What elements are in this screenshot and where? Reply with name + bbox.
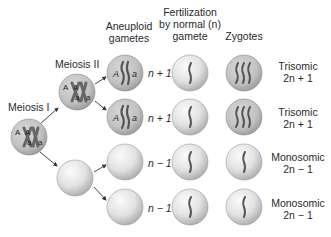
svg-text:A: A (15, 128, 21, 137)
arrow-empty-to-gamete3 (94, 165, 106, 172)
normal-gamete-cell-4 (172, 189, 208, 225)
zygote-cell-3 (226, 144, 262, 180)
meiosis-2-cell: A A a a (59, 74, 95, 110)
svg-text:A: A (25, 128, 31, 137)
chromosome-icon (236, 63, 238, 83)
arrow-m2-to-gamete1 (95, 77, 106, 84)
gamete-cell-4 (107, 189, 143, 225)
svg-text:A: A (112, 113, 119, 123)
zygote-cell-2 (226, 99, 262, 135)
normal-gamete-cell-2 (172, 99, 208, 135)
svg-text:A: A (63, 83, 69, 92)
normal-gamete-cell-1 (172, 55, 208, 91)
svg-text:a: a (132, 113, 137, 123)
gamete-cell-2: A a (107, 99, 143, 135)
chromosome-icon (236, 107, 238, 127)
arrow-empty-to-gamete4 (94, 187, 106, 200)
gamete-cell-1: A a (107, 55, 143, 91)
arrow-m1-to-m2 (40, 108, 58, 124)
gamete-cell-3 (107, 144, 143, 180)
svg-text:a: a (27, 138, 32, 147)
svg-text:a: a (132, 69, 137, 79)
svg-text:A: A (73, 83, 79, 92)
zygote-cell-1 (226, 55, 262, 91)
arrow-m2-to-gamete2 (95, 101, 106, 110)
normal-gamete-cell-3 (172, 144, 208, 180)
zygote-cell-4 (226, 189, 262, 225)
meiosis-1-cell: A A a a (11, 119, 47, 155)
meiosis-2-empty-cell (57, 160, 93, 196)
svg-text:a: a (75, 93, 80, 102)
svg-text:A: A (112, 69, 119, 79)
arrow-m1-to-empty (40, 152, 57, 166)
svg-text:a: a (38, 138, 43, 147)
nondisjunction-diagram: A A a a A A a a A a A a (0, 0, 331, 237)
svg-text:a: a (86, 93, 91, 102)
